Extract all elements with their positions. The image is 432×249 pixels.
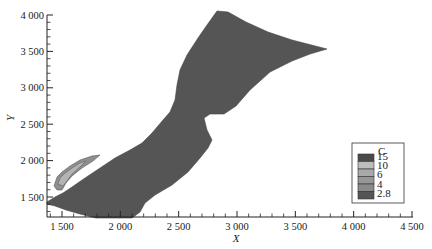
- legend-swatch: [358, 154, 374, 162]
- y-tick-label: 3 500: [20, 46, 44, 57]
- domain-region: [47, 11, 327, 218]
- legend-swatch: [358, 169, 374, 177]
- legend-swatch: [358, 177, 374, 185]
- x-axis-title: X: [232, 232, 241, 244]
- y-tick-label: 2 000: [20, 155, 44, 166]
- legend: C 1510642.8: [352, 143, 404, 203]
- x-tick-label: 3 000: [225, 221, 249, 232]
- legend-level-label: 2.8: [377, 187, 391, 199]
- y-tick-label: 3 000: [20, 82, 44, 93]
- x-tick-label: 1 500: [50, 221, 74, 232]
- y-tick-label: 4 000: [20, 10, 44, 21]
- y-ticks: 1 5002 0002 5003 0003 5004 000: [20, 10, 53, 212]
- contour-plot: 1 5002 0002 5003 0003 5004 000 1 5002 00…: [0, 0, 432, 249]
- x-tick-label: 2 000: [109, 221, 133, 232]
- x-tick-label: 4 500: [400, 221, 424, 232]
- x-tick-label: 2 500: [167, 221, 191, 232]
- y-tick-label: 2 500: [20, 119, 44, 130]
- x-tick-label: 4 000: [342, 221, 366, 232]
- y-tick-label: 1 500: [20, 192, 44, 203]
- x-tick-label: 3 500: [284, 221, 308, 232]
- y-axis-title: Y: [4, 113, 16, 121]
- legend-swatch: [358, 162, 374, 170]
- legend-swatches: [358, 154, 374, 199]
- legend-swatch: [358, 184, 374, 192]
- legend-swatch: [358, 192, 374, 200]
